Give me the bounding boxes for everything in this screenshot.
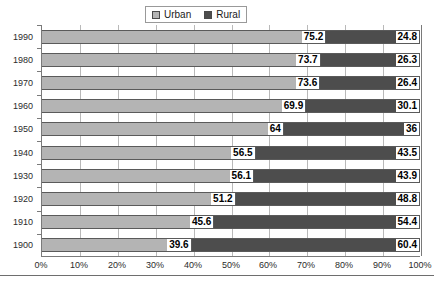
bar-segment-rural: 36: [284, 122, 420, 136]
bar-segment-urban: 45.6: [42, 215, 214, 229]
x-axis-tick-label: 30%: [146, 260, 164, 271]
y-axis-tick-label: 1970: [13, 78, 33, 88]
x-axis-tick-label: 70%: [297, 260, 315, 271]
bar-value-label-rural: 30.1: [396, 100, 419, 112]
bar-value-label-rural: 54.4: [396, 216, 419, 228]
x-axis-tick-label: 90%: [373, 260, 391, 271]
x-axis-tick-label: 20%: [108, 260, 126, 271]
x-axis-tick-label: 40%: [184, 260, 202, 271]
bar-value-label-urban: 64: [268, 123, 283, 135]
bar-value-label-urban: 73.6: [296, 77, 319, 89]
urban-swatch-icon: [152, 11, 160, 19]
x-axis-tick-label: 50%: [222, 260, 240, 271]
x-axis-tick-label: 60%: [259, 260, 277, 271]
bar-segment-urban: 51.2: [42, 192, 236, 206]
bar-segment-rural: 26.3: [321, 53, 420, 67]
bar-row: 56.543.5: [42, 146, 420, 160]
legend-entry-rural: Rural: [204, 10, 240, 20]
y-axis-tick-label: 1900: [13, 240, 33, 250]
bar-segment-urban: 73.7: [42, 53, 321, 67]
bar-value-label-rural: 26.3: [396, 54, 419, 66]
gridline: [421, 25, 422, 256]
bar-row: 6436: [42, 122, 420, 136]
bar-value-label-urban: 69.9: [282, 100, 305, 112]
x-axis-tick-label: 10%: [70, 260, 88, 271]
bar-segment-urban: 69.9: [42, 99, 306, 113]
bar-segment-urban: 56.5: [42, 146, 256, 160]
bar-value-label-urban: 45.6: [190, 216, 213, 228]
bar-segment-rural: 43.9: [254, 169, 420, 183]
bar-value-label-rural: 24.8: [396, 31, 419, 43]
bar-value-label-urban: 56.5: [231, 147, 254, 159]
bar-segment-rural: 26.4: [320, 76, 420, 90]
bar-value-label-rural: 60.4: [396, 239, 419, 251]
legend-entry-urban: Urban: [152, 10, 191, 20]
rural-swatch-icon: [204, 11, 212, 19]
bar-segment-rural: 54.4: [214, 215, 420, 229]
bar-value-label-rural: 43.9: [396, 170, 419, 182]
y-axis-tick-label: 1950: [13, 124, 33, 134]
x-axis-tick-label: 80%: [335, 260, 353, 271]
y-axis-tick-label: 1990: [13, 32, 33, 42]
bar-row: 73.726.3: [42, 53, 420, 67]
bar-value-label-urban: 75.2: [302, 31, 325, 43]
bar-value-label-urban: 56.1: [230, 170, 253, 182]
bar-value-label-urban: 51.2: [211, 193, 234, 205]
bar-segment-rural: 24.8: [326, 30, 420, 44]
bar-row: 51.248.8: [42, 192, 420, 206]
bar-value-label-urban: 73.7: [296, 54, 319, 66]
bar-row: 75.224.8: [42, 30, 420, 44]
y-axis-tick-label: 1920: [13, 194, 33, 204]
legend-label-rural: Rural: [216, 10, 240, 20]
bar-value-label-rural: 36: [404, 123, 419, 135]
bar-segment-urban: 56.1: [42, 169, 254, 183]
y-axis-tick-label: 1910: [13, 217, 33, 227]
bar-row: 39.660.4: [42, 238, 420, 252]
bar-value-label-rural: 26.4: [396, 77, 419, 89]
x-axis-labels: 0%10%20%30%40%50%60%70%80%90%100%: [41, 260, 420, 274]
bar-segment-urban: 73.6: [42, 76, 320, 90]
bar-segment-urban: 75.2: [42, 30, 326, 44]
bar-segment-rural: 60.4: [192, 238, 420, 252]
bar-row: 56.143.9: [42, 169, 420, 183]
bar-value-label-rural: 43.5: [396, 147, 419, 159]
bar-row: 45.654.4: [42, 215, 420, 229]
plot-area: 75.224.873.726.373.626.469.930.1643656.5…: [41, 25, 420, 257]
y-axis-tick-label: 1930: [13, 171, 33, 181]
y-axis-tick-label: 1940: [13, 148, 33, 158]
bar-segment-rural: 43.5: [256, 146, 420, 160]
bar-value-label-rural: 48.8: [396, 193, 419, 205]
footer-rule: [0, 275, 434, 276]
bar-segment-urban: 39.6: [42, 238, 192, 252]
bar-segment-rural: 30.1: [306, 99, 420, 113]
x-axis-tick-label: 0%: [34, 260, 47, 271]
bar-segment-urban: 64: [42, 122, 284, 136]
x-axis-tick-label: 100%: [408, 260, 431, 271]
legend-label-urban: Urban: [164, 10, 191, 20]
y-axis-tick-label: 1960: [13, 101, 33, 111]
bar-row: 73.626.4: [42, 76, 420, 90]
y-axis-tick-label: 1980: [13, 55, 33, 65]
chart-legend: Urban Rural: [145, 6, 247, 23]
stacked-bar-chart: Urban Rural 1990198019701960195019401930…: [0, 0, 434, 281]
bar-row: 69.930.1: [42, 99, 420, 113]
bar-segment-rural: 48.8: [236, 192, 420, 206]
bar-rows: 75.224.873.726.373.626.469.930.1643656.5…: [42, 25, 420, 256]
bar-value-label-urban: 39.6: [167, 239, 190, 251]
y-axis-labels: 1990198019701960195019401930192019101900: [0, 25, 37, 257]
